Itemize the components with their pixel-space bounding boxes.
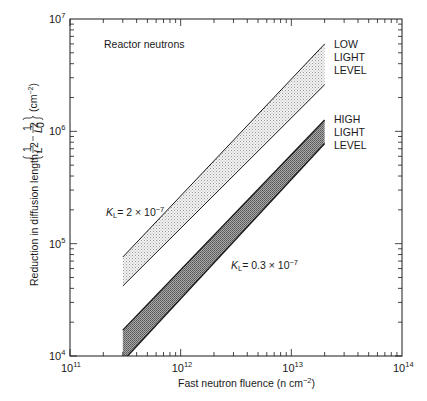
y-tick-label: 106 — [49, 123, 65, 137]
svg-text:(cm−2): (cm−2) — [27, 83, 39, 112]
svg-text:LEVEL: LEVEL — [334, 139, 367, 151]
x-axis-title: Fast neutron fluence (n cm−2) — [178, 376, 315, 389]
svg-text:Reduction in diffusion length,: Reduction in diffusion length, — [28, 151, 40, 286]
kl-high-annotation: KL= 0.3 × 10−7 — [231, 258, 298, 273]
chart: 1011101210131014104105106107 Reactor neu… — [0, 0, 427, 401]
low-light-level-label: LOW LIGHT LEVEL — [334, 38, 367, 76]
data-bands — [123, 44, 325, 361]
svg-text:HIGH: HIGH — [334, 113, 360, 125]
kl-low-annotation: KL= 2 × 10−7 — [106, 205, 164, 220]
svg-text:0: 0 — [34, 122, 46, 128]
x-tick-label: 1013 — [282, 360, 303, 374]
x-tick-label: 1012 — [172, 360, 193, 374]
x-tick-label: 1014 — [393, 360, 414, 374]
svg-text:LOW: LOW — [334, 38, 358, 50]
x-tick-label: 1011 — [61, 360, 81, 374]
y-tick-label: 107 — [49, 11, 65, 25]
high-light-level-label: HIGH LIGHT LEVEL — [334, 113, 367, 151]
svg-text:LIGHT: LIGHT — [334, 51, 366, 63]
cut-off-caption — [0, 396, 427, 401]
reactor-neutrons-label: Reactor neutrons — [104, 38, 185, 50]
svg-text:LEVEL: LEVEL — [334, 64, 367, 76]
y-axis-title: Reduction in diffusion length, 1 L 2 1 L… — [21, 83, 46, 286]
svg-text:LIGHT: LIGHT — [334, 126, 366, 138]
y-tick-label: 104 — [49, 348, 65, 362]
y-tick-label: 105 — [49, 236, 65, 250]
svg-text:2: 2 — [28, 142, 40, 148]
y-axis-formula: 1 L 2 1 L 2 0 (cm−2) — [21, 83, 46, 160]
